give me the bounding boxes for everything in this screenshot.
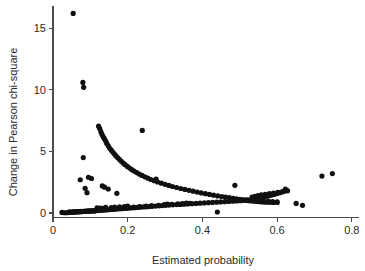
- data-point: [84, 190, 89, 195]
- y-axis: 051015: [34, 6, 53, 219]
- data-point: [89, 176, 94, 181]
- data-point: [285, 188, 290, 193]
- y-tick-label: 15: [34, 22, 46, 34]
- data-point: [275, 190, 280, 195]
- data-point: [175, 201, 180, 206]
- x-tick-label: 0.8: [344, 224, 359, 236]
- plot-canvas: 051015 00.20.40.60.8 Estimated probabili…: [0, 0, 365, 271]
- data-point: [78, 177, 83, 182]
- x-axis-title: Estimated probability: [152, 254, 255, 266]
- data-point: [169, 202, 174, 207]
- data-point: [149, 203, 154, 208]
- data-point: [81, 155, 86, 160]
- data-point: [81, 85, 86, 90]
- data-point: [300, 203, 305, 208]
- x-tick-label: 0: [50, 224, 56, 236]
- data-point: [103, 205, 108, 210]
- data-point: [106, 186, 111, 191]
- data-point: [71, 11, 76, 16]
- data-point: [156, 203, 161, 208]
- data-point: [270, 199, 275, 204]
- x-tick-label: 0.4: [195, 224, 210, 236]
- y-axis-title: Change in Pearson chi-square: [7, 48, 19, 197]
- scatter-plot-figure: 051015 00.20.40.60.8 Estimated probabili…: [0, 0, 365, 271]
- data-point: [131, 204, 136, 209]
- x-tick-label: 0.2: [120, 224, 135, 236]
- data-point: [215, 209, 220, 214]
- data-point: [165, 202, 170, 207]
- data-point: [114, 191, 119, 196]
- data-point: [280, 189, 285, 194]
- x-axis: 00.20.40.60.8: [50, 218, 360, 236]
- data-point: [117, 204, 122, 209]
- data-point: [232, 183, 237, 188]
- data-point: [137, 204, 142, 209]
- y-tick-label: 0: [40, 207, 46, 219]
- data-points-layer: [59, 11, 335, 216]
- y-tick-label: 5: [40, 145, 46, 157]
- y-tick-label: 10: [34, 84, 46, 96]
- x-tick-label: 0.6: [269, 224, 284, 236]
- data-point: [92, 208, 97, 213]
- data-point: [319, 173, 324, 178]
- data-point: [271, 190, 276, 195]
- data-point: [143, 203, 148, 208]
- data-point: [125, 204, 130, 209]
- data-point: [112, 205, 117, 210]
- data-point: [140, 128, 145, 133]
- data-point: [275, 199, 280, 204]
- data-point: [294, 201, 299, 206]
- data-point: [187, 201, 192, 206]
- data-point: [80, 80, 85, 85]
- data-point: [330, 171, 335, 176]
